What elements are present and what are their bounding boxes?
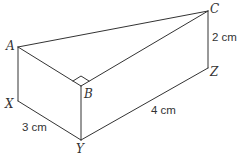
measurement-YZ: 4 cm xyxy=(151,104,176,116)
vertex-label-A: A xyxy=(5,39,15,53)
measurement-XY: 3 cm xyxy=(22,121,47,133)
edge-YZ xyxy=(81,68,208,140)
vertex-label-C: C xyxy=(210,2,219,16)
edge-AC xyxy=(18,11,208,47)
vertex-label-B: B xyxy=(83,87,93,101)
edge-AB xyxy=(18,47,81,86)
vertex-label-X: X xyxy=(4,97,14,111)
right-angle-marker xyxy=(73,76,89,81)
prism-diagram: A B C X Y Z 3 cm 4 cm 2 cm xyxy=(0,0,238,155)
vertex-label-Y: Y xyxy=(76,142,85,155)
vertex-label-Z: Z xyxy=(209,65,219,79)
edge-BC xyxy=(81,11,208,86)
measurement-CZ: 2 cm xyxy=(212,31,237,43)
